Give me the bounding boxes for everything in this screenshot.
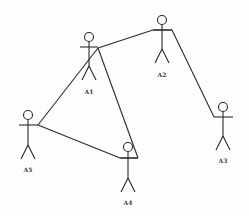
connection-a2-a3 [172,30,214,117]
actor-label-a4: A4 [123,199,133,206]
actor-leg-right [28,145,35,159]
connection-a5-a4 [38,125,120,158]
actor-leg-left [121,178,128,192]
actor-label-a1: A1 [84,88,94,95]
actor-leg-right [162,49,169,63]
actor-label-a5: A5 [23,166,33,173]
actor-head-icon [219,103,228,112]
connection-a1-a2 [98,30,153,48]
actor-head-icon [85,33,94,42]
actor-leg-left [82,66,89,80]
actor-leg-left [21,145,28,159]
actor-leg-right [223,136,230,150]
actor-a5[interactable] [19,111,38,160]
connections [38,30,214,158]
actor-leg-left [216,136,223,150]
diagram-svg: A1 A2 A3 A4 [0,0,249,216]
actor-head-icon [124,143,133,152]
actor-a2[interactable] [153,16,172,64]
actor-head-icon [24,111,33,120]
actor-a1[interactable] [80,33,98,81]
actor-leg-left [155,49,162,63]
actor-a3[interactable] [214,103,233,151]
actor-label-a2: A2 [157,71,167,78]
diagram-canvas: A1 A2 A3 A4 [0,0,249,216]
actor-leg-right [128,178,135,192]
connection-a1-a4 [98,48,138,158]
actor-head-icon [158,16,167,25]
actor-leg-right [89,66,96,80]
actor-label-a3: A3 [218,157,228,164]
